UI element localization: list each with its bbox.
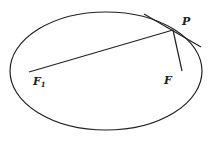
label-f1: F1 bbox=[32, 75, 46, 89]
segment-f1-p bbox=[29, 30, 173, 72]
segment-f-p bbox=[173, 30, 182, 71]
label-f1-subscript: 1 bbox=[41, 80, 46, 89]
label-f: F bbox=[163, 74, 173, 87]
label-p: P bbox=[181, 15, 191, 28]
ellipse-diagram: P F1 F bbox=[0, 0, 213, 141]
ellipse bbox=[10, 12, 202, 130]
